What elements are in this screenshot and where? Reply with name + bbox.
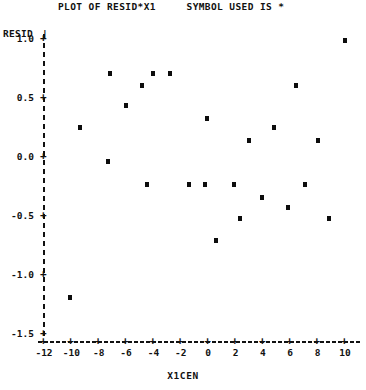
y-axis-line	[43, 34, 46, 339]
x-axis-dash	[74, 341, 78, 343]
y-tick-marker: +	[40, 91, 47, 102]
data-point	[106, 159, 110, 164]
y-axis-dash	[43, 232, 45, 237]
x-axis-dash	[224, 341, 228, 343]
x-axis-dash	[110, 341, 114, 343]
data-point	[294, 83, 298, 88]
data-point	[140, 83, 144, 88]
x-axis-dash	[50, 341, 54, 343]
data-point	[303, 182, 307, 187]
y-tick-label: -1.5	[0, 328, 34, 339]
data-point	[272, 125, 276, 130]
data-point	[238, 216, 242, 221]
x-axis-dash	[134, 341, 138, 343]
y-axis-dash	[43, 223, 45, 228]
x-axis-dash	[194, 341, 198, 343]
x-axis-dash	[242, 341, 246, 343]
data-point	[214, 238, 218, 243]
y-axis-dash	[43, 133, 45, 138]
x-axis-dash	[170, 341, 174, 343]
y-tick-marker: +	[40, 32, 47, 43]
y-axis-dash	[43, 295, 45, 300]
x-tick-marker: +	[67, 335, 74, 346]
x-tick-marker: +	[232, 335, 239, 346]
y-axis-dash	[43, 115, 45, 120]
x-axis-dash	[320, 341, 324, 343]
data-point	[68, 295, 72, 300]
y-axis-dash	[43, 124, 45, 129]
data-point	[327, 216, 331, 221]
data-point	[151, 71, 155, 76]
data-point	[145, 182, 149, 187]
y-axis-dash	[43, 241, 45, 246]
x-tick-label: -2	[167, 347, 195, 358]
x-axis-dash	[248, 341, 252, 343]
y-axis-dash	[43, 286, 45, 291]
data-point	[247, 138, 251, 143]
y-axis-dash	[43, 250, 45, 255]
data-point	[260, 195, 264, 200]
x-tick-marker: +	[341, 335, 348, 346]
x-axis-dash	[356, 341, 360, 343]
y-tick-marker: +	[40, 150, 47, 161]
x-axis-dash	[326, 341, 330, 343]
y-axis-dash	[43, 178, 45, 183]
x-axis-dash	[62, 341, 66, 343]
y-tick-label: 1.0	[0, 33, 34, 44]
x-axis-dash	[332, 341, 336, 343]
x-axis-dash	[212, 341, 216, 343]
x-axis-dash	[278, 341, 282, 343]
data-point	[343, 38, 347, 43]
x-axis-dash	[308, 341, 312, 343]
x-tick-marker: +	[259, 335, 266, 346]
x-tick-label: -12	[30, 347, 58, 358]
x-tick-label: -6	[112, 347, 140, 358]
y-axis-dash	[43, 196, 45, 201]
plot-title: PLOT OF RESID*X1 SYMBOL USED IS *	[0, 1, 366, 12]
x-axis-dash	[272, 341, 276, 343]
data-point	[316, 138, 320, 143]
x-tick-marker: +	[40, 335, 47, 346]
y-axis-dash	[43, 187, 45, 192]
y-axis-dash	[43, 169, 45, 174]
y-axis-dash	[43, 259, 45, 264]
y-axis-dash	[43, 79, 45, 84]
x-axis-dash	[140, 341, 144, 343]
x-tick-marker: +	[122, 335, 129, 346]
x-axis-dash	[104, 341, 108, 343]
y-axis-dash	[43, 70, 45, 75]
x-axis-dash	[158, 341, 162, 343]
data-point	[168, 71, 172, 76]
y-tick-label: 0.5	[0, 92, 34, 103]
x-tick-marker: +	[95, 335, 102, 346]
x-axis-dash	[254, 341, 258, 343]
x-tick-marker: +	[204, 335, 211, 346]
x-axis-dash	[116, 341, 120, 343]
x-axis-dash	[350, 341, 354, 343]
data-point	[205, 116, 209, 121]
x-axis-line	[38, 341, 358, 344]
data-point	[78, 125, 82, 130]
y-axis-dash	[43, 313, 45, 318]
scatter-plot-canvas: PLOT OF RESID*X1 SYMBOL USED IS * RESID …	[0, 0, 366, 390]
y-axis-dash	[43, 106, 45, 111]
data-point	[232, 182, 236, 187]
y-tick-label: 0.0	[0, 151, 34, 162]
x-axis-dash	[266, 341, 270, 343]
x-tick-label: 10	[331, 347, 359, 358]
data-point	[286, 205, 290, 210]
y-tick-label: -0.5	[0, 210, 34, 221]
y-axis-dash	[43, 52, 45, 57]
x-tick-label: -4	[139, 347, 167, 358]
y-tick-marker: +	[40, 268, 47, 279]
data-point	[108, 71, 112, 76]
x-tick-label: -8	[85, 347, 113, 358]
x-axis-dash	[164, 341, 168, 343]
y-tick-label: -1.0	[0, 269, 34, 280]
x-tick-label: 2	[222, 347, 250, 358]
data-point	[124, 103, 128, 108]
x-axis-dash	[302, 341, 306, 343]
data-point	[203, 182, 207, 187]
x-tick-label: 6	[276, 347, 304, 358]
y-tick-marker: +	[40, 209, 47, 220]
